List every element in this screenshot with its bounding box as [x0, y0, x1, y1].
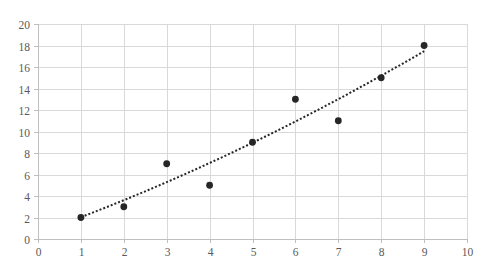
data-points — [78, 42, 428, 221]
y-tick-label: 10 — [19, 127, 31, 139]
x-tick-label: 3 — [165, 246, 171, 258]
x-axis-tick-labels: 012345678910 — [36, 246, 474, 258]
x-tick-label: 9 — [422, 246, 428, 258]
y-tick-label: 6 — [24, 170, 30, 182]
x-tick-label: 7 — [336, 246, 342, 258]
y-axis-tick-labels: 02468101214161820 — [19, 19, 31, 246]
y-tick-label: 18 — [19, 41, 31, 53]
data-point — [292, 96, 299, 103]
data-point — [335, 117, 342, 124]
y-tick-label: 12 — [19, 105, 31, 117]
x-tick-label: 5 — [251, 246, 257, 258]
y-tick-label: 2 — [24, 213, 30, 225]
data-point — [78, 214, 85, 221]
data-point — [378, 74, 385, 81]
y-tick-label: 14 — [19, 84, 31, 96]
scatter-chart: 02468101214161820 012345678910 — [0, 0, 487, 276]
y-tick-label: 8 — [24, 148, 30, 160]
y-tick-label: 0 — [24, 234, 30, 246]
x-tick-label: 0 — [36, 246, 42, 258]
trendline-path — [81, 51, 424, 217]
trendline — [81, 51, 424, 217]
x-tick-label: 4 — [208, 246, 214, 258]
x-tick-label: 6 — [293, 246, 299, 258]
x-tick-label: 2 — [122, 246, 128, 258]
data-point — [249, 139, 256, 146]
y-tick-label: 20 — [19, 19, 31, 31]
data-point — [206, 182, 213, 189]
data-point — [120, 203, 127, 210]
axes — [34, 24, 468, 243]
data-point — [421, 42, 428, 49]
gridlines — [38, 24, 468, 239]
x-tick-label: 10 — [462, 246, 474, 258]
data-point — [163, 160, 170, 167]
y-tick-label: 4 — [24, 191, 30, 203]
x-tick-label: 1 — [79, 246, 85, 258]
x-tick-label: 8 — [379, 246, 385, 258]
y-tick-label: 16 — [19, 62, 31, 74]
